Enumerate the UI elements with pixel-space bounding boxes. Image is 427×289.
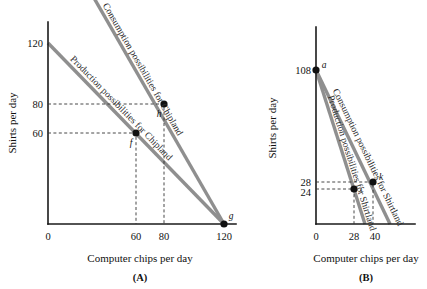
panel-b: a c k 108 28 24 0 28 40 Computer chips p… (266, 27, 419, 284)
panel-b-xtick-40: 40 (370, 231, 381, 242)
panel-a-ytick-80: 80 (33, 99, 44, 110)
panel-a-consumption-curve-label: Consumption possibilities for Chipland (101, 1, 186, 138)
panel-b-xtick-0: 0 (313, 231, 318, 242)
panel-a-ytick-120: 120 (27, 38, 43, 49)
point-f-label: f (130, 138, 134, 148)
panel-a-xtick-80: 80 (159, 231, 170, 242)
point-g-label: g (229, 211, 234, 221)
panel-a-xtick-120: 120 (216, 231, 232, 242)
panel-a-guide-h (48, 104, 164, 224)
point-a-dot (312, 66, 319, 73)
panel-a: h f g 120 80 60 0 60 80 120 Computer chi… (6, 0, 236, 284)
panel-b-x-axis-title: Computer chips per day (313, 252, 419, 264)
point-g-dot (220, 220, 227, 227)
panel-a-ytick-60: 60 (33, 128, 44, 139)
panel-b-ytick-24: 24 (301, 187, 312, 198)
panel-a-caption: (A) (133, 272, 148, 284)
panel-a-guide-f (48, 133, 136, 224)
panel-b-guide-c (316, 189, 354, 224)
economics-figure: h f g 120 80 60 0 60 80 120 Computer chi… (0, 0, 427, 289)
panel-a-xtick-60: 60 (131, 231, 142, 242)
panel-a-y-axis-title: Shirts per day (6, 92, 18, 154)
panel-a-xtick-0: 0 (45, 231, 50, 242)
panel-b-y-axis-title: Shirts per day (266, 97, 278, 159)
panel-b-xtick-28: 28 (349, 231, 360, 242)
panel-a-x-axis-title: Computer chips per day (87, 252, 193, 264)
point-a-label: a (322, 60, 327, 70)
panel-b-ytick-108: 108 (295, 65, 311, 76)
panel-b-caption: (B) (359, 272, 374, 284)
